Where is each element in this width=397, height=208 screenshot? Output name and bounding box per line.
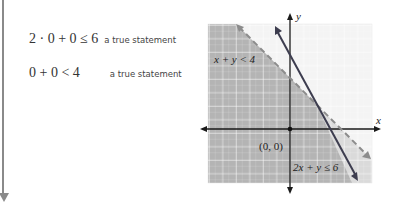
inequality-2-label: 2x + y ≤ 6 [293,161,339,173]
y-axis-down-arrow-icon [287,187,293,194]
x-axis-label: x [375,114,381,126]
origin-point [288,127,293,132]
inequality-1-label: x + y < 4 [213,53,256,65]
inequality-graph: y x (0, 0) x + y < 4 2x + y ≤ 6 [0,0,397,208]
x-axis-left-arrow-icon [200,126,207,132]
y-axis-up-arrow-icon [287,13,293,20]
origin-label: (0, 0) [259,140,283,153]
x-axis-right-arrow-icon [374,126,381,132]
y-axis-label: y [295,10,301,22]
